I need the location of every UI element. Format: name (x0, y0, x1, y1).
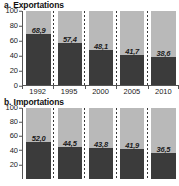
chart-panel-b: b. Importations1008060402052,044,543,841… (0, 97, 179, 179)
bar-slot: 41,9 (117, 108, 148, 179)
x-tick-label: 2000 (85, 86, 116, 97)
y-tick-label: 80 (10, 22, 18, 30)
bar-slot: 43,8 (85, 108, 116, 179)
bar-segment-lower (151, 153, 175, 179)
x-tick-mark (148, 86, 149, 89)
bar-slot: 44,5 (54, 108, 85, 179)
bar-slot: 36,5 (148, 108, 179, 179)
plot-area-b: 1008060402052,044,543,841,936,5 (0, 108, 179, 179)
x-tick-label: 2005 (116, 86, 147, 97)
bar-segment-lower (120, 149, 144, 179)
bar-group: 52,044,543,841,936,5 (23, 108, 179, 179)
x-axis-a: 19921995200020052010 (22, 86, 179, 97)
x-tick-label: 1992 (22, 86, 53, 97)
bar-slot: 57,4 (54, 11, 85, 86)
bar-segment-lower (58, 147, 82, 179)
bar-group: 68,957,448,141,738,6 (23, 11, 179, 86)
bar-value-label: 38,6 (157, 49, 171, 58)
y-tick-label: 20 (10, 161, 18, 169)
x-tick-mark (53, 86, 54, 89)
bar-slot: 52,0 (23, 108, 54, 179)
bars-container-a: 68,957,448,141,738,6 (22, 11, 179, 86)
bar-value-label: 36,5 (157, 145, 171, 154)
x-tick-text: 1992 (29, 87, 46, 96)
bar-value-label: 44,5 (63, 139, 77, 148)
stacked-bar[interactable] (151, 108, 175, 179)
x-tick-text: 2010 (155, 87, 172, 96)
bar-segment-lower (58, 43, 82, 86)
x-tick-text: 2005 (124, 87, 141, 96)
bar-value-label: 41,7 (125, 46, 139, 55)
x-tick-mark (22, 86, 23, 89)
bar-value-label: 57,4 (63, 34, 77, 43)
bar-value-label: 41,9 (125, 141, 139, 150)
bar-segment-lower (89, 50, 113, 86)
y-tick-label: 80 (10, 118, 18, 126)
panel-title-b: b. Importations (0, 97, 179, 108)
bars-container-b: 52,044,543,841,936,5 (22, 108, 179, 179)
y-tick-label: 40 (10, 52, 18, 60)
x-tick-mark (116, 86, 117, 89)
plot-area-a: 10080604020068,957,448,141,738,6 (0, 11, 179, 86)
x-tick-text: 2000 (92, 87, 109, 96)
bar-segment-lower (151, 57, 175, 86)
panel-title-a: a. Exportations (0, 0, 179, 11)
bar-value-label: 52,0 (32, 134, 46, 143)
y-tick-label: 100 (5, 104, 18, 112)
y-tick-label: 60 (10, 37, 18, 45)
stacked-bar[interactable] (26, 108, 50, 179)
y-tick-label: 40 (10, 147, 18, 155)
figure-root: a. Exportations10080604020068,957,448,14… (0, 0, 179, 179)
x-tick-mark (178, 86, 179, 89)
y-tick-label: 60 (10, 133, 18, 141)
y-axis-b: 10080604020 (0, 108, 22, 179)
bar-slot: 68,9 (23, 11, 54, 86)
bar-segment-lower (26, 142, 50, 179)
stacked-bar[interactable] (26, 11, 50, 86)
chart-panel-a: a. Exportations10080604020068,957,448,14… (0, 0, 179, 97)
x-tick-label: 2010 (148, 86, 179, 97)
bar-slot: 41,7 (117, 11, 148, 86)
y-axis-a: 100806040200 (0, 11, 22, 86)
bar-value-label: 48,1 (94, 41, 108, 50)
y-tick-label: 100 (5, 7, 18, 15)
bar-segment-lower (120, 55, 144, 86)
bar-segment-lower (26, 34, 50, 86)
x-tick-mark (85, 86, 86, 89)
bar-slot: 48,1 (85, 11, 116, 86)
bar-value-label: 43,8 (94, 139, 108, 148)
x-tick-label: 1995 (53, 86, 84, 97)
bar-slot: 38,6 (148, 11, 179, 86)
x-tick-text: 1995 (61, 87, 78, 96)
y-tick-label: 20 (10, 67, 18, 75)
stacked-bar[interactable] (58, 11, 82, 86)
bar-segment-lower (89, 148, 113, 179)
y-tick-label: 0 (14, 82, 18, 90)
bar-value-label: 68,9 (32, 26, 46, 35)
